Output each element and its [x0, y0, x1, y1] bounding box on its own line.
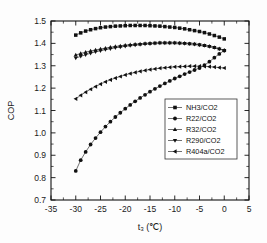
data-point — [198, 30, 202, 34]
data-point — [217, 52, 221, 56]
data-point — [153, 24, 157, 28]
data-point — [79, 158, 83, 162]
y-tick-label: 1.3 — [34, 61, 46, 71]
y-tick-label: 1.2 — [34, 83, 46, 93]
data-point — [168, 79, 172, 83]
y-axis-title: COP — [6, 101, 16, 121]
data-point — [153, 87, 157, 91]
data-point — [99, 26, 103, 30]
x-tick-label: 5 — [247, 204, 252, 214]
y-tick-label: 1.0 — [34, 128, 46, 138]
data-point — [213, 34, 217, 38]
y-tick-label: 1.5 — [34, 16, 46, 26]
data-point — [173, 77, 177, 81]
legend-label: R32/CO2 — [186, 125, 216, 134]
data-point — [94, 27, 98, 31]
data-point — [188, 70, 192, 74]
data-point — [88, 87, 92, 91]
data-point — [143, 68, 147, 72]
data-point — [138, 24, 142, 28]
data-point — [153, 67, 157, 71]
data-point — [133, 24, 137, 28]
data-point — [208, 32, 212, 36]
data-point — [143, 93, 147, 97]
data-point — [148, 90, 152, 94]
data-point — [158, 84, 162, 88]
data-point — [158, 24, 162, 28]
data-point — [168, 65, 172, 69]
data-point — [128, 71, 132, 75]
data-point — [113, 76, 117, 80]
legend-layer[interactable]: NH3/CO2R22/CO2R32/CO2R290/CO2R404a/CO2 — [165, 99, 237, 159]
data-point — [178, 65, 182, 69]
data-point — [208, 60, 212, 64]
series-r290-co2 — [74, 42, 227, 61]
data-point — [128, 103, 132, 107]
data-point — [124, 24, 128, 28]
data-point — [187, 64, 191, 68]
legend-label: R290/CO2 — [186, 136, 220, 145]
data-point — [133, 99, 137, 103]
legend-marker — [173, 106, 177, 110]
data-point — [138, 69, 142, 73]
chart-canvas: NH3/CO2R22/CO2R32/CO2R290/CO2R404a/CO2 -… — [0, 0, 267, 243]
data-point — [178, 26, 182, 30]
x-tick-label: -30 — [70, 204, 83, 214]
data-point — [108, 78, 112, 82]
data-point — [193, 68, 197, 72]
series-line — [76, 25, 225, 38]
data-point — [74, 97, 78, 101]
data-point — [128, 24, 132, 28]
data-point — [98, 82, 102, 86]
y-tick-label: 0.9 — [34, 150, 46, 160]
data-point — [163, 25, 167, 29]
data-point — [123, 107, 127, 111]
data-point — [138, 96, 142, 100]
data-point — [109, 120, 113, 124]
y-tick-label: 1.1 — [34, 106, 46, 116]
data-point — [168, 25, 172, 29]
x-tick-label: -25 — [94, 204, 107, 214]
legend-marker — [173, 117, 177, 121]
data-point — [192, 64, 196, 68]
y-tick-label: 1.4 — [34, 38, 46, 48]
legend-label: R22/CO2 — [186, 114, 216, 123]
data-point — [119, 24, 123, 28]
x-tick-label: -5 — [196, 204, 204, 214]
data-point — [163, 82, 167, 86]
legend-label: NH3/CO2 — [186, 103, 218, 112]
data-point — [218, 35, 222, 39]
data-point — [99, 130, 103, 134]
data-point — [79, 31, 83, 35]
x-tick-label: 0 — [222, 204, 227, 214]
data-point — [222, 66, 226, 70]
series-nh3-co2 — [74, 24, 226, 41]
data-point — [148, 67, 152, 71]
data-point — [148, 24, 152, 28]
x-tick-label: -15 — [144, 204, 157, 214]
x-tick-label: -10 — [169, 204, 182, 214]
data-point — [118, 111, 122, 115]
legend-label: R404a/CO2 — [186, 147, 225, 156]
x-tick-label: -35 — [45, 204, 58, 214]
data-point — [93, 84, 97, 88]
data-point — [84, 150, 88, 154]
data-point — [163, 66, 167, 70]
data-point — [104, 125, 108, 129]
data-point — [203, 31, 207, 35]
data-point — [183, 27, 187, 31]
y-tick-label: 0.8 — [34, 173, 46, 183]
data-point — [84, 29, 88, 32]
data-point — [133, 70, 137, 74]
data-point — [143, 24, 147, 28]
data-point — [183, 72, 187, 76]
data-point — [94, 136, 98, 140]
data-point — [74, 57, 78, 61]
series-line — [76, 66, 225, 99]
data-point — [83, 90, 87, 94]
data-point — [114, 24, 118, 28]
data-point — [193, 29, 197, 33]
data-point — [123, 73, 127, 77]
data-point — [74, 33, 78, 37]
data-point — [212, 65, 216, 69]
